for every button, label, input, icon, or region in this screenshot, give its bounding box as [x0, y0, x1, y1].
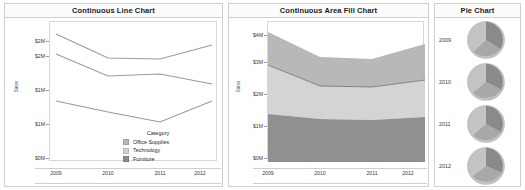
legend-item-furniture[interactable]: Furniture [123, 156, 207, 163]
legend-swatch-icon-office-supplies [123, 139, 129, 145]
legend-title: Category [109, 130, 207, 136]
legend-label-office-supplies: Office Supplies [133, 139, 169, 146]
line-chart-y-axis-title: Sales [14, 72, 19, 102]
pie-chart-body: 2009 2010 [435, 18, 520, 188]
area-chart-ytick-3: $3M [241, 59, 263, 65]
legend-label-furniture: Furniture [133, 156, 155, 163]
area-chart-xtick-2012: 2012 [391, 170, 425, 177]
area-chart-ytick-2: $2M [241, 91, 263, 97]
line-series-technology [56, 34, 212, 59]
pie-row-2012: 2012 [435, 146, 522, 186]
line-chart-xtick-2009: 2009 [35, 170, 77, 177]
pie-year-label-2012: 2012 [439, 163, 451, 169]
area-chart-ytick-0: $0M [241, 155, 263, 161]
line-chart-xtick-2011: 2011 [139, 170, 181, 177]
area-chart-xtick-2011: 2011 [355, 170, 389, 177]
line-chart-ytick-2: $1M [21, 87, 45, 93]
area-chart-ytick-1: $1M [241, 123, 263, 129]
pie-row-2010: 2010 [435, 62, 522, 102]
pie-year-label-2009: 2009 [439, 37, 451, 43]
pie-graphic-2011[interactable] [467, 105, 505, 143]
line-chart-ytick-0: $0M [21, 155, 45, 161]
area-chart-panel: Continuous Area Fill Chart Sales $0M $1M… [228, 3, 429, 187]
legend-item-office-supplies[interactable]: Office Supplies [123, 139, 207, 146]
line-chart-body: Sales $0M $1M $1M $2M $2M [5, 18, 222, 188]
area-chart-body: Sales $0M $1M $2M $3M $4M [229, 18, 428, 188]
pie-year-label-2010: 2010 [439, 79, 451, 85]
line-chart-xtick-2010: 2010 [87, 170, 129, 177]
area-chart-title: Continuous Area Fill Chart [229, 4, 428, 18]
pie-row-2011: 2011 [435, 104, 522, 144]
area-chart-xtick-2010: 2010 [303, 170, 337, 177]
area-chart-y-axis-title: Sales [236, 72, 241, 102]
legend-swatch-icon-furniture [123, 156, 129, 162]
line-chart-title: Continuous Line Chart [5, 4, 222, 18]
line-chart-legend: Category Office Supplies Technology Furn… [109, 130, 207, 164]
legend-item-technology[interactable]: Technology [123, 147, 207, 154]
area-chart-series-svg [268, 22, 425, 162]
pie-graphic-2010[interactable] [467, 63, 505, 101]
pie-row-2009: 2009 [435, 20, 522, 60]
area-chart-xtick-2009: 2009 [251, 170, 285, 177]
line-chart-ytick-3: $2M [21, 53, 45, 59]
pie-graphic-2012[interactable] [467, 147, 505, 185]
line-chart-ytick-1: $1M [21, 121, 45, 127]
line-series-furniture [56, 101, 212, 122]
pie-chart-panel: Pie Chart 2009 2010 [434, 3, 521, 187]
line-chart-panel: Continuous Line Chart Sales $0M $1M $1M … [4, 3, 223, 187]
dashboard-root: Continuous Line Chart Sales $0M $1M $1M … [0, 0, 525, 190]
line-chart-ytick-4: $2M [21, 38, 45, 44]
area-chart-plot-area [267, 21, 424, 161]
pie-year-label-2011: 2011 [439, 121, 451, 127]
area-series-furniture [268, 114, 425, 162]
area-chart-ytick-4: $4M [241, 32, 263, 38]
line-chart-xtick-2012: 2012 [179, 170, 221, 177]
pie-graphic-2009[interactable] [467, 21, 505, 59]
legend-swatch-icon-technology [123, 148, 129, 154]
pie-chart-title: Pie Chart [435, 4, 520, 18]
legend-label-technology: Technology [133, 147, 160, 154]
